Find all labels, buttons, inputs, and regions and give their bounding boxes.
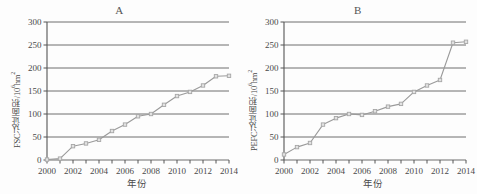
data-point-marker [386, 105, 389, 108]
data-point-marker [412, 90, 415, 93]
y-tick-label: 300 [28, 17, 42, 27]
chart-panel-b: B PEFC认证面积/106hm2 0501001502002503002000… [239, 0, 477, 194]
x-tick-label: 2010 [405, 166, 424, 176]
y-tick-label: 0 [274, 155, 279, 165]
x-tick-label: 2004 [90, 166, 109, 176]
x-tick-label: 2012 [194, 166, 212, 176]
data-point-marker [162, 103, 165, 106]
data-point-marker [45, 158, 48, 161]
data-point-marker [425, 84, 428, 87]
data-point-marker [201, 84, 204, 87]
x-tick-label: 2014 [457, 166, 476, 176]
data-point-marker [214, 75, 217, 78]
x-tick-label: 2008 [379, 166, 398, 176]
data-point-marker [282, 153, 285, 156]
data-point-marker [360, 113, 363, 116]
y-tick-label: 150 [28, 86, 42, 96]
y-tick-label: 150 [265, 86, 279, 96]
y-tick-label: 50 [269, 132, 279, 142]
panel-a-plot-area: 0501001502002503002000200220042006200820… [0, 0, 238, 194]
data-point-marker [175, 94, 178, 97]
x-tick-label: 2012 [431, 166, 449, 176]
data-point-marker [149, 112, 152, 115]
y-tick-label: 250 [265, 40, 279, 50]
x-tick-label: 2000 [38, 166, 57, 176]
data-point-marker [308, 141, 311, 144]
data-point-marker [110, 129, 113, 132]
data-point-marker [188, 90, 191, 93]
data-point-marker [347, 112, 350, 115]
data-point-marker [373, 110, 376, 113]
y-tick-label: 100 [28, 109, 42, 119]
y-tick-label: 200 [265, 63, 279, 73]
x-tick-label: 2010 [168, 166, 187, 176]
data-point-marker [71, 145, 74, 148]
y-tick-label: 0 [37, 155, 42, 165]
data-point-marker [464, 40, 467, 43]
data-point-marker [97, 138, 100, 141]
data-point-marker [295, 145, 298, 148]
x-tick-label: 2008 [142, 166, 161, 176]
y-tick-label: 100 [265, 109, 279, 119]
x-tick-label: 2002 [64, 166, 82, 176]
panel-a-x-axis-label: 年份 [44, 176, 229, 190]
panel-b-plot-area: 0501001502002503002000200220042006200820… [239, 0, 477, 194]
x-tick-label: 2002 [301, 166, 319, 176]
data-point-marker [321, 123, 324, 126]
y-tick-label: 250 [28, 40, 42, 50]
y-tick-label: 50 [33, 132, 43, 142]
figure-container: A FSC认证面积/106hm2 05010015020025030020002… [0, 0, 477, 194]
data-point-marker [58, 157, 61, 160]
x-tick-label: 2006 [353, 166, 372, 176]
x-tick-label: 2014 [220, 166, 238, 176]
panel-b-x-axis-label: 年份 [281, 176, 466, 190]
x-tick-label: 2006 [116, 166, 135, 176]
data-point-marker [438, 78, 441, 81]
data-point-marker [123, 123, 126, 126]
data-point-marker [136, 115, 139, 118]
data-point-marker [451, 41, 454, 44]
data-point-marker [399, 102, 402, 105]
data-series-line [284, 42, 466, 155]
data-point-marker [227, 74, 230, 77]
data-point-marker [84, 142, 87, 145]
x-tick-label: 2004 [327, 166, 346, 176]
y-tick-label: 200 [28, 63, 42, 73]
y-tick-label: 300 [265, 17, 279, 27]
data-point-marker [334, 116, 337, 119]
chart-panel-a: A FSC认证面积/106hm2 05010015020025030020002… [0, 0, 239, 194]
x-tick-label: 2000 [275, 166, 294, 176]
